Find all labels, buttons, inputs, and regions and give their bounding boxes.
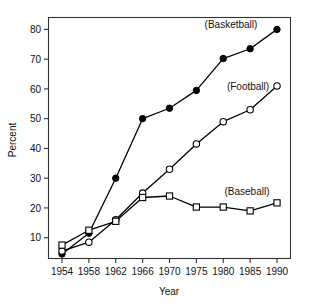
x-tick-label: 1954 xyxy=(51,266,74,277)
series-annotation-football: (Football) xyxy=(227,81,269,92)
data-point-baseball xyxy=(247,208,253,214)
series-annotation-basketball: (Basketball) xyxy=(205,19,258,30)
data-point-basketball xyxy=(193,87,199,93)
data-point-football xyxy=(86,239,92,245)
x-tick-label: 1975 xyxy=(185,266,208,277)
data-point-football xyxy=(193,141,199,147)
y-tick-label: 50 xyxy=(30,113,42,124)
data-point-baseball xyxy=(59,242,65,248)
data-point-baseball xyxy=(193,204,199,210)
x-tick-label: 1970 xyxy=(158,266,181,277)
data-point-basketball xyxy=(113,175,119,181)
data-point-basketball xyxy=(220,55,226,61)
data-point-baseball xyxy=(113,218,119,224)
y-tick-label: 20 xyxy=(30,203,42,214)
x-tick-label: 1990 xyxy=(266,266,289,277)
chart-background xyxy=(0,0,309,306)
data-point-baseball xyxy=(274,200,280,206)
y-tick-label: 40 xyxy=(30,143,42,154)
y-tick-label: 70 xyxy=(30,54,42,65)
data-point-football xyxy=(274,83,280,89)
data-point-football xyxy=(166,166,172,172)
x-axis-title: Year xyxy=(159,286,180,297)
chart-figure: 1020304050607080 19541958196219661970197… xyxy=(0,0,309,306)
data-point-baseball xyxy=(140,194,146,200)
data-point-football xyxy=(59,248,65,254)
data-point-baseball xyxy=(220,204,226,210)
data-point-basketball xyxy=(274,26,280,32)
data-point-football xyxy=(247,107,253,113)
x-tick-label: 1962 xyxy=(105,266,128,277)
y-tick-label: 10 xyxy=(30,232,42,243)
data-point-football xyxy=(220,118,226,124)
x-tick-label: 1958 xyxy=(78,266,101,277)
y-tick-label: 30 xyxy=(30,173,42,184)
data-point-baseball xyxy=(86,227,92,233)
y-tick-label: 60 xyxy=(30,84,42,95)
x-tick-label: 1966 xyxy=(132,266,155,277)
x-tick-label: 1980 xyxy=(212,266,235,277)
data-point-basketball xyxy=(139,115,145,121)
line-chart-canvas: 1020304050607080 19541958196219661970197… xyxy=(0,0,309,306)
series-annotation-baseball: (Baseball) xyxy=(224,186,269,197)
data-point-basketball xyxy=(247,46,253,52)
x-axis-tick-labels: 195419581962196619701975198019851990 xyxy=(51,266,289,277)
x-tick-label: 1985 xyxy=(239,266,262,277)
data-point-baseball xyxy=(166,193,172,199)
y-axis-title: Percent xyxy=(7,123,18,158)
y-tick-label: 80 xyxy=(30,24,42,35)
data-point-basketball xyxy=(166,105,172,111)
